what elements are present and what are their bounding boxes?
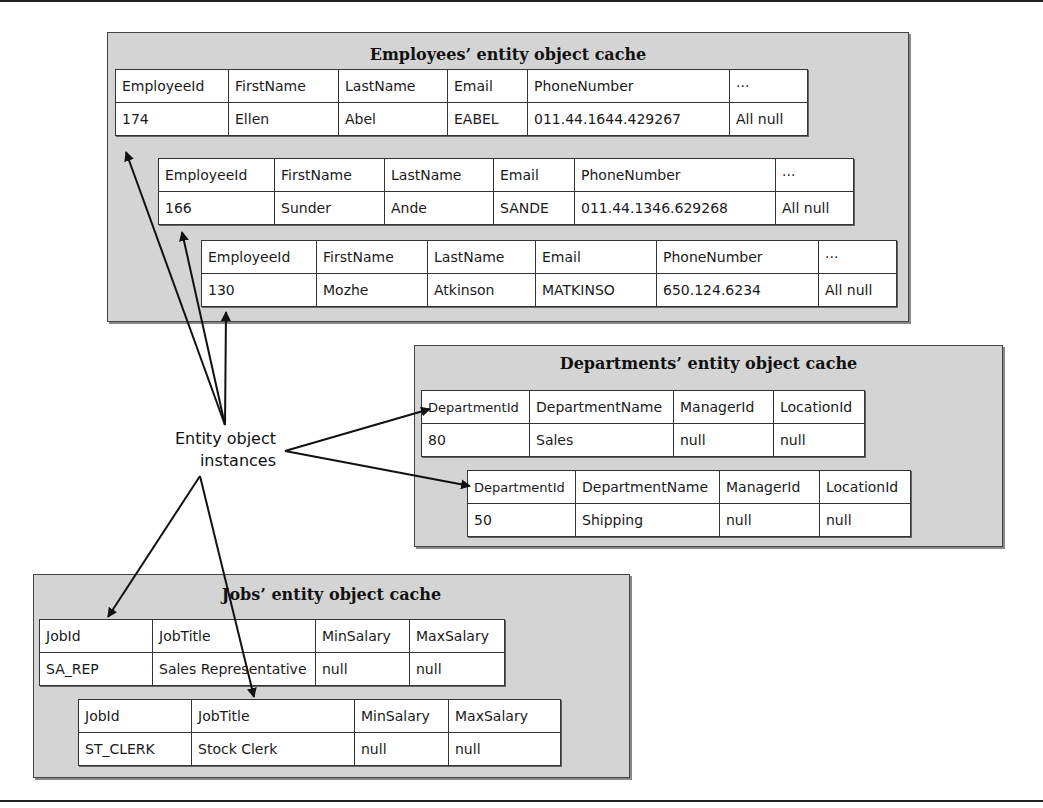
value-cell: Shipping (576, 504, 720, 537)
header-cell: FirstName (229, 70, 339, 103)
record-header-row: JobId JobTitle MinSalary MaxSalary (79, 700, 561, 733)
header-cell: Email (494, 159, 575, 192)
job-record-sa-rep: JobId JobTitle MinSalary MaxSalary SA_RE… (39, 619, 505, 686)
value-cell: Ellen (229, 103, 339, 136)
value-cell: null (674, 424, 774, 457)
header-cell: JobTitle (192, 700, 355, 733)
header-cell: DepartmentName (530, 391, 674, 424)
header-cell: DepartmentId (468, 471, 576, 504)
header-cell: Email (536, 241, 657, 274)
value-cell: All null (819, 274, 897, 307)
arrow-to-employee-130 (225, 312, 226, 425)
job-record-st-clerk: JobId JobTitle MinSalary MaxSalary ST_CL… (78, 699, 561, 766)
record-header-row: EmployeeId FirstName LastName Email Phon… (202, 241, 897, 274)
header-cell: MaxSalary (410, 620, 505, 653)
departments-cache-title: Departments’ entity object cache (415, 354, 1002, 373)
value-cell: Atkinson (428, 274, 536, 307)
value-cell: 650.124.6234 (657, 274, 819, 307)
value-cell: 166 (159, 192, 275, 225)
value-cell: Mozhe (317, 274, 428, 307)
value-cell: ST_CLERK (79, 733, 192, 766)
header-cell: MaxSalary (449, 700, 561, 733)
record-header-row: DepartmentId DepartmentName ManagerId Lo… (468, 471, 911, 504)
label-line-2: instances (150, 450, 276, 472)
entity-instances-label: Entity object instances (150, 428, 276, 472)
header-cell: JobId (79, 700, 192, 733)
value-cell: All null (730, 103, 808, 136)
value-cell: 011.44.1644.429267 (528, 103, 730, 136)
header-cell: Email (448, 70, 528, 103)
value-cell: Ande (385, 192, 494, 225)
value-cell: SA_REP (40, 653, 153, 686)
value-cell: EABEL (448, 103, 528, 136)
value-cell: MATKINSO (536, 274, 657, 307)
value-cell: Sunder (275, 192, 385, 225)
header-cell: LastName (385, 159, 494, 192)
record-value-row: SA_REP Sales Representative null null (40, 653, 505, 686)
top-rule (0, 0, 1043, 2)
value-cell: null (774, 424, 865, 457)
department-record-80: DepartmentId DepartmentName ManagerId Lo… (421, 390, 865, 457)
label-line-1: Entity object (150, 428, 276, 450)
value-cell: null (410, 653, 505, 686)
record-value-row: 50 Shipping null null (468, 504, 911, 537)
employee-record-130: EmployeeId FirstName LastName Email Phon… (201, 240, 897, 307)
record-value-row: 166 Sunder Ande SANDE 011.44.1346.629268… (159, 192, 854, 225)
header-cell: ··· (730, 70, 808, 103)
header-cell: EmployeeId (116, 70, 229, 103)
header-cell: LastName (339, 70, 448, 103)
header-cell: ··· (776, 159, 854, 192)
header-cell: ManagerId (674, 391, 774, 424)
header-cell: PhoneNumber (528, 70, 730, 103)
value-cell: null (355, 733, 449, 766)
header-cell: FirstName (275, 159, 385, 192)
record-header-row: DepartmentId DepartmentName ManagerId Lo… (422, 391, 865, 424)
value-cell: Stock Clerk (192, 733, 355, 766)
employees-cache-title: Employees’ entity object cache (108, 45, 908, 64)
value-cell: SANDE (494, 192, 575, 225)
header-cell: EmployeeId (159, 159, 275, 192)
header-cell: MinSalary (316, 620, 410, 653)
header-cell: PhoneNumber (657, 241, 819, 274)
record-value-row: ST_CLERK Stock Clerk null null (79, 733, 561, 766)
record-header-row: EmployeeId FirstName LastName Email Phon… (159, 159, 854, 192)
record-value-row: 174 Ellen Abel EABEL 011.44.1644.429267 … (116, 103, 808, 136)
value-cell: Abel (339, 103, 448, 136)
header-cell: LastName (428, 241, 536, 274)
employee-record-166: EmployeeId FirstName LastName Email Phon… (158, 158, 854, 225)
value-cell: Sales Representative (153, 653, 316, 686)
value-cell: 011.44.1346.629268 (575, 192, 776, 225)
header-cell: DepartmentName (576, 471, 720, 504)
arrow-to-department-80 (285, 409, 430, 451)
value-cell: null (449, 733, 561, 766)
value-cell: 50 (468, 504, 576, 537)
employee-record-174: EmployeeId FirstName LastName Email Phon… (115, 69, 808, 136)
value-cell: Sales (530, 424, 674, 457)
record-value-row: 80 Sales null null (422, 424, 865, 457)
header-cell: JobId (40, 620, 153, 653)
header-cell: DepartmentId (422, 391, 530, 424)
header-cell: EmployeeId (202, 241, 317, 274)
department-record-50: DepartmentId DepartmentName ManagerId Lo… (467, 470, 911, 537)
record-header-row: JobId JobTitle MinSalary MaxSalary (40, 620, 505, 653)
jobs-cache-title: Jobs’ entity object cache (34, 585, 629, 604)
record-header-row: EmployeeId FirstName LastName Email Phon… (116, 70, 808, 103)
header-cell: LocationId (774, 391, 865, 424)
header-cell: PhoneNumber (575, 159, 776, 192)
header-cell: MinSalary (355, 700, 449, 733)
value-cell: null (720, 504, 820, 537)
value-cell: null (316, 653, 410, 686)
header-cell: FirstName (317, 241, 428, 274)
header-cell: ··· (819, 241, 897, 274)
header-cell: LocationId (820, 471, 911, 504)
header-cell: JobTitle (153, 620, 316, 653)
value-cell: 80 (422, 424, 530, 457)
value-cell: null (820, 504, 911, 537)
header-cell: ManagerId (720, 471, 820, 504)
bottom-rule (0, 800, 1043, 802)
record-value-row: 130 Mozhe Atkinson MATKINSO 650.124.6234… (202, 274, 897, 307)
value-cell: All null (776, 192, 854, 225)
value-cell: 130 (202, 274, 317, 307)
value-cell: 174 (116, 103, 229, 136)
